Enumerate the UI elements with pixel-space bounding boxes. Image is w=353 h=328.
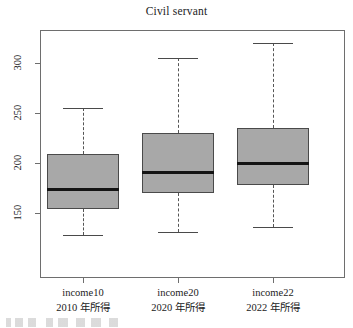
whisker-lower-income10 xyxy=(83,209,84,235)
y-tick-mark-300 xyxy=(35,63,40,64)
whisker-cap-upper-income22 xyxy=(253,43,293,44)
whisker-cap-upper-income10 xyxy=(63,108,103,109)
box-income22 xyxy=(237,128,309,185)
y-tick-mark-200 xyxy=(35,163,40,164)
whisker-cap-lower-income22 xyxy=(253,227,293,228)
scan-artifact-strip xyxy=(6,318,156,327)
x-tick-label-income10-line1: income10 xyxy=(62,287,103,298)
x-tick-label-income22-line1: income22 xyxy=(252,287,293,298)
x-tick-mark-income20 xyxy=(178,278,179,283)
whisker-cap-lower-income10 xyxy=(63,235,103,236)
boxplot-figure: Civil servant 300 250 200 150 income10 2… xyxy=(0,0,353,328)
whisker-lower-income20 xyxy=(178,193,179,232)
x-tick-label-income10-line2: 2010 年所得 xyxy=(28,300,138,315)
whisker-cap-lower-income20 xyxy=(158,232,198,233)
whisker-upper-income10 xyxy=(83,108,84,154)
median-income10 xyxy=(47,188,119,191)
x-tick-mark-income10 xyxy=(83,278,84,283)
page-title: Civil servant xyxy=(0,5,353,17)
whisker-cap-upper-income20 xyxy=(158,58,198,59)
x-tick-label-income20: income20 2020 年所得 xyxy=(123,285,233,315)
x-tick-label-income20-line2: 2020 年所得 xyxy=(123,300,233,315)
y-tick-label-150: 150 xyxy=(12,198,23,228)
y-tick-label-300: 300 xyxy=(12,48,23,78)
x-tick-label-income20-line1: income20 xyxy=(157,287,198,298)
median-income22 xyxy=(237,162,309,165)
y-tick-label-250: 250 xyxy=(12,98,23,128)
whisker-lower-income22 xyxy=(273,185,274,227)
x-tick-label-income22: income22 2022 年所得 xyxy=(218,285,328,315)
x-tick-label-income10: income10 2010 年所得 xyxy=(28,285,138,315)
median-income20 xyxy=(142,171,214,174)
x-tick-mark-income22 xyxy=(273,278,274,283)
whisker-upper-income22 xyxy=(273,43,274,128)
box-income10 xyxy=(47,154,119,209)
y-tick-mark-250 xyxy=(35,113,40,114)
x-tick-label-income22-line2: 2022 年所得 xyxy=(218,300,328,315)
y-tick-label-200: 200 xyxy=(12,148,23,178)
box-income20 xyxy=(142,133,214,193)
whisker-upper-income20 xyxy=(178,58,179,133)
y-tick-mark-150 xyxy=(35,213,40,214)
